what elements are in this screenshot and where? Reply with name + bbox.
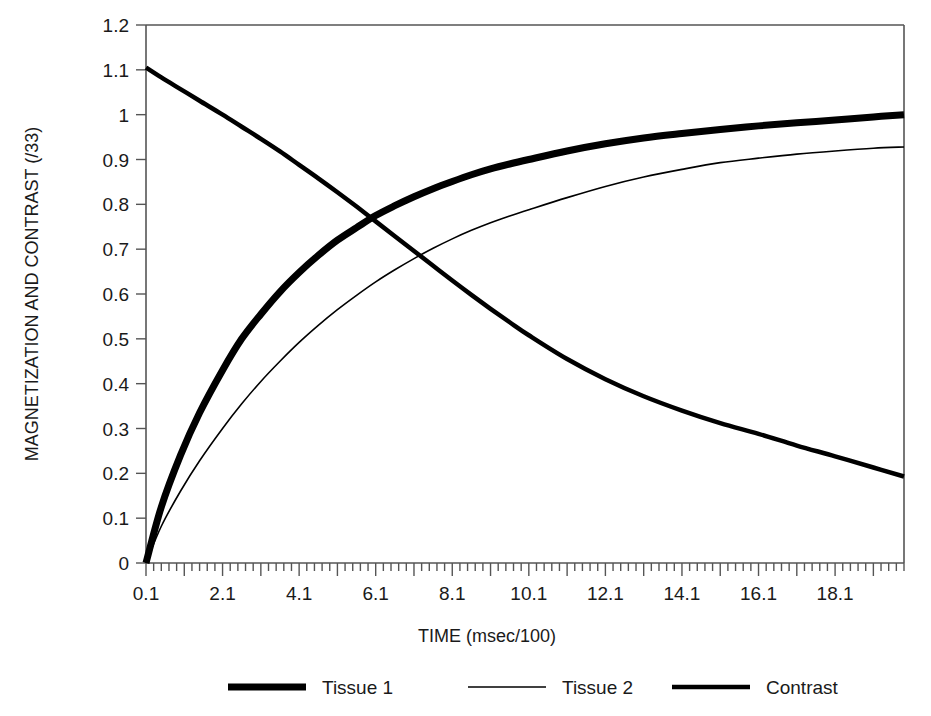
x-tick-label: 18.1 [817, 583, 854, 604]
x-tick-label: 6.1 [362, 583, 388, 604]
legend-label-contrast: Contrast [766, 677, 839, 698]
y-axis: 00.10.20.30.40.50.60.70.80.911.11.2 [103, 15, 146, 574]
y-tick-label: 0.3 [103, 419, 129, 440]
y-tick-label: 0.5 [103, 329, 129, 350]
series-line-tissue-1 [146, 115, 904, 563]
y-tick-label: 0.2 [103, 463, 129, 484]
y-axis-title: MAGNETIZATION AND CONTRAST (/33) [22, 127, 42, 461]
x-tick-label: 14.1 [663, 583, 700, 604]
chart-canvas: 00.10.20.30.40.50.60.70.80.911.11.2 0.12… [0, 0, 931, 716]
y-tick-label: 0 [118, 553, 129, 574]
x-tick-label: 16.1 [740, 583, 777, 604]
x-tick-label: 4.1 [286, 583, 312, 604]
x-axis-title: TIME (msec/100) [418, 626, 556, 646]
plot-frame [146, 25, 904, 563]
x-axis: 0.12.14.16.18.110.112.114.116.118.1 [133, 563, 904, 604]
y-tick-label: 0.6 [103, 284, 129, 305]
legend-label-tissue-2: Tissue 2 [562, 677, 633, 698]
y-tick-label: 0.4 [103, 374, 130, 395]
x-tick-label: 8.1 [439, 583, 465, 604]
y-tick-label: 0.1 [103, 508, 129, 529]
y-tick-label: 1.1 [103, 60, 129, 81]
x-tick-label: 0.1 [133, 583, 159, 604]
y-tick-label: 0.8 [103, 194, 129, 215]
x-tick-label: 10.1 [510, 583, 547, 604]
data-series-group [146, 68, 904, 563]
chart-container: 00.10.20.30.40.50.60.70.80.911.11.2 0.12… [0, 0, 931, 716]
series-line-contrast [146, 68, 904, 477]
legend-label-tissue-1: Tissue 1 [322, 677, 393, 698]
y-tick-label: 0.7 [103, 239, 129, 260]
y-tick-label: 1 [118, 105, 129, 126]
series-line-tissue-2 [146, 147, 904, 563]
x-tick-label: 2.1 [209, 583, 235, 604]
y-tick-label: 1.2 [103, 15, 129, 36]
x-tick-label: 12.1 [587, 583, 624, 604]
chart-legend: Tissue 1Tissue 2Contrast [228, 677, 839, 698]
y-tick-label: 0.9 [103, 150, 129, 171]
